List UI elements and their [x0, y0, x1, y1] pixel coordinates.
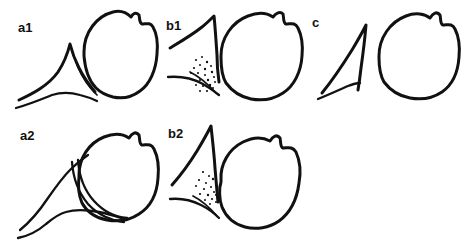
- panel-label-a2: a2: [20, 128, 34, 143]
- acetabular-inferior-limb-a2: [18, 210, 124, 238]
- anatomical-figure: a1 b1: [0, 0, 467, 250]
- acetabular-inferior-limb-b1: [168, 77, 219, 95]
- panel-label-a1: a1: [18, 20, 32, 35]
- figure-container: a1 b1: [0, 0, 467, 250]
- femoral-head-b1: [221, 13, 302, 100]
- panel-b1: b1: [166, 13, 302, 100]
- panel-label-b1: b1: [166, 18, 181, 33]
- femoral-head-a1: [84, 11, 157, 97]
- panel-a2: a2: [18, 128, 158, 238]
- femoral-head-b2: [220, 136, 300, 228]
- acetabular-inferior-limb-b2: [170, 199, 219, 218]
- panel-label-c: c: [312, 15, 319, 30]
- panel-b2: b2: [168, 126, 300, 228]
- panel-c: c: [312, 13, 459, 99]
- panel-a1: a1: [16, 11, 157, 108]
- cartilage-border-b1: [190, 72, 216, 93]
- femoral-head-c: [379, 13, 459, 99]
- panel-label-b2: b2: [168, 126, 183, 141]
